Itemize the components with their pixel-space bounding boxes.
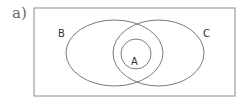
set-c-label: C — [203, 28, 210, 39]
set-b-label: B — [58, 28, 65, 39]
set-a-label: A — [131, 56, 138, 67]
venn-diagram: B C A — [0, 0, 247, 101]
set-c-ellipse — [113, 20, 204, 86]
set-b-ellipse — [66, 20, 163, 86]
